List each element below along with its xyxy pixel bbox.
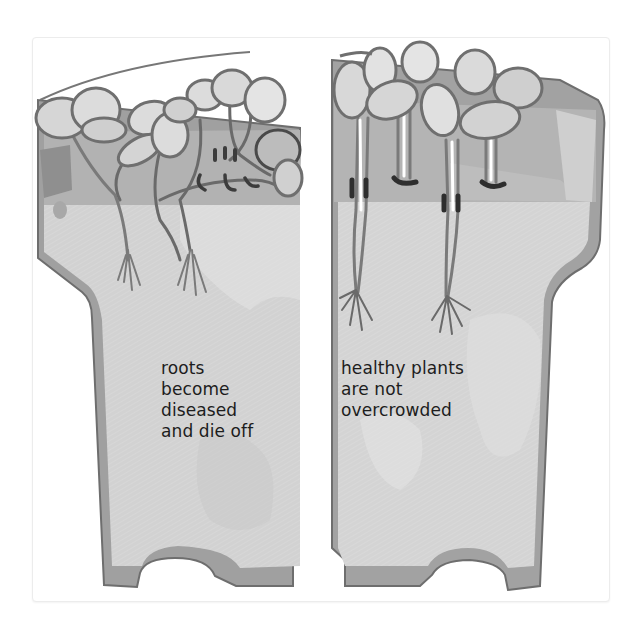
caption-line: healthy plants xyxy=(341,358,464,379)
caption-line: become xyxy=(161,379,253,400)
caption-line: diseased xyxy=(161,400,253,421)
right-pot xyxy=(332,42,604,590)
caption-line: are not xyxy=(341,379,464,400)
left-caption: roots become diseased and die off xyxy=(161,358,253,442)
right-caption: healthy plants are not overcrowded xyxy=(341,358,464,421)
pots-illustration xyxy=(0,0,630,636)
left-pot xyxy=(36,52,302,587)
caption-line: roots xyxy=(161,358,253,379)
caption-line: overcrowded xyxy=(341,400,464,421)
caption-line: and die off xyxy=(161,421,253,442)
